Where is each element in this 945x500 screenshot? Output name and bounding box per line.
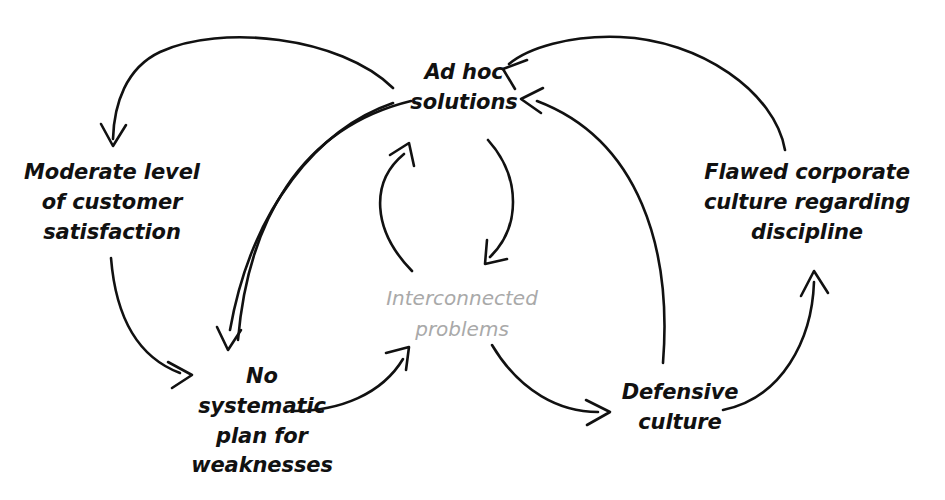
edge-adhoc-to-center	[488, 140, 513, 257]
edge-flawed-to-adhoc	[509, 37, 785, 150]
edge-center-to-defensive	[492, 345, 598, 412]
edge-center-to-adhoc	[380, 154, 412, 271]
center-label-interconnected-problems: Interconnected problems	[362, 283, 562, 345]
node-moderate-customer-satisfaction: Moderate level of customer satisfaction	[14, 158, 210, 247]
diagram-canvas: Ad hoc solutions Moderate level of custo…	[0, 0, 945, 500]
node-defensive-culture: Defensive culture	[600, 378, 760, 438]
node-ad-hoc-solutions: Ad hoc solutions	[384, 58, 544, 118]
node-no-systematic-plan: No systematic plan for weaknesses	[176, 362, 348, 481]
node-flawed-corporate-culture: Flawed corporate culture regarding disci…	[700, 158, 914, 247]
edge-moderate-to-noplan	[111, 258, 180, 373]
